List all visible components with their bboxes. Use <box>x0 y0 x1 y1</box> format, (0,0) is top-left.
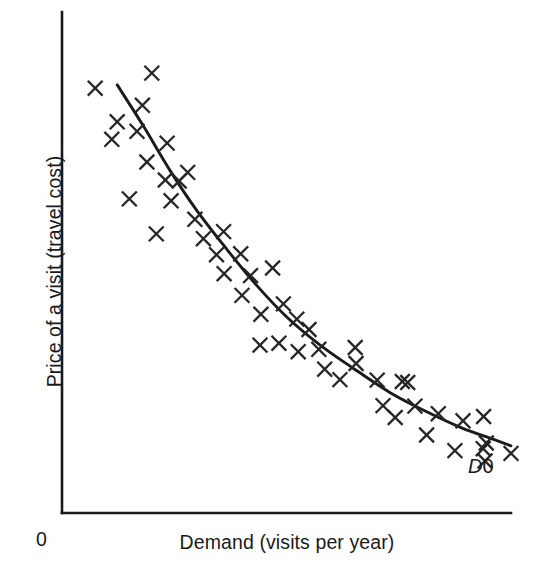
data-point-marker <box>253 338 268 353</box>
curve-label-subscript: 0 <box>482 455 493 477</box>
data-point-marker <box>348 340 363 355</box>
data-point-marker <box>135 98 150 113</box>
data-point-marker <box>476 409 491 424</box>
curve-label-d0: D0 <box>468 455 494 478</box>
data-point-marker <box>504 446 519 461</box>
data-point-marker <box>448 443 463 458</box>
data-point-marker <box>130 124 145 139</box>
data-point-marker <box>333 372 348 387</box>
data-point-marker <box>164 193 179 208</box>
data-point-marker <box>216 224 231 239</box>
data-point-marker <box>408 399 423 414</box>
data-point-marker <box>276 297 291 312</box>
demand-curve-d0 <box>117 85 511 446</box>
demand-curve-figure: Price of a visit (travel cost) Demand (v… <box>0 0 534 575</box>
y-axis-label: Price of a visit (travel cost) <box>43 122 66 422</box>
data-point-marker <box>104 132 119 147</box>
data-point-marker <box>419 428 434 443</box>
plot-canvas <box>0 0 534 575</box>
data-point-marker <box>180 165 195 180</box>
data-point-marker <box>158 173 173 188</box>
data-point-marker <box>217 266 232 281</box>
data-point-marker <box>149 227 164 242</box>
data-point-marker <box>140 155 155 170</box>
data-point-marker <box>272 336 287 351</box>
data-point-marker <box>110 114 125 129</box>
data-point-marker <box>388 410 403 425</box>
data-point-marker <box>233 246 248 261</box>
data-point-marker <box>254 307 269 322</box>
data-point-marker <box>291 344 306 359</box>
data-point-marker <box>317 362 332 377</box>
data-point-marker <box>160 136 175 151</box>
origin-label: 0 <box>36 528 47 551</box>
data-point-marker <box>235 288 250 303</box>
data-point-marker <box>88 81 103 96</box>
data-point-marker <box>196 231 211 246</box>
x-axis-label: Demand (visits per year) <box>62 531 512 554</box>
scatter-markers <box>88 66 519 469</box>
curve-label-symbol: D <box>468 455 482 477</box>
data-point-marker <box>188 212 203 227</box>
data-point-marker <box>456 413 471 428</box>
data-point-marker <box>122 192 137 207</box>
data-point-marker <box>243 268 258 283</box>
data-point-marker <box>265 261 280 276</box>
data-point-marker <box>144 66 159 81</box>
data-point-marker <box>209 247 224 262</box>
